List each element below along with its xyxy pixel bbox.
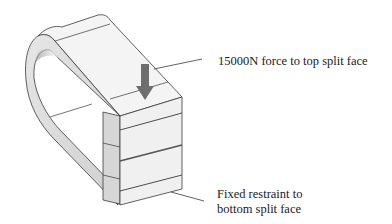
block-front-face	[120, 97, 182, 205]
force-annotation-text: 15000N force to top split face	[218, 54, 368, 68]
force-annotation: 15000N force to top split face	[218, 54, 368, 69]
fixed-annotation-line-1: Fixed restraint to	[217, 187, 302, 202]
clamp-diagram	[0, 0, 392, 224]
fixed-restraint-annotation: Fixed restraint to bottom split face	[217, 187, 302, 217]
fixed-leader-line	[171, 192, 204, 201]
loop-top-surface	[38, 15, 182, 116]
fixed-annotation-line-2: bottom split face	[217, 202, 302, 217]
force-leader-line	[154, 59, 202, 69]
block-side-face	[103, 112, 120, 204]
loop-bottom-edge	[50, 104, 92, 117]
